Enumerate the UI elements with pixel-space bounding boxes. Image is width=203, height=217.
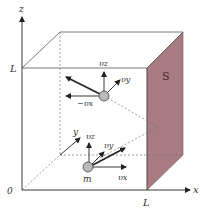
mass-particle: [83, 162, 93, 172]
top-vz-label: υz: [99, 59, 109, 68]
bot-vx-label: υx: [118, 173, 128, 182]
y-axis: [60, 138, 80, 155]
bot-vz-label: υz: [86, 132, 96, 141]
z-axis-label: z: [18, 4, 24, 14]
wall-s-face: [147, 32, 183, 190]
x-L-label: L: [142, 197, 150, 208]
z-L-label: L: [9, 63, 17, 74]
top-vy-label: υy: [121, 75, 131, 84]
mass-label: m: [83, 174, 92, 184]
top-particle: [99, 91, 109, 101]
top-neg-vx-label: −υx: [77, 99, 94, 108]
y-axis-label: y: [72, 127, 79, 137]
bot-vy-label: υy: [104, 141, 114, 150]
origin-label: 0: [7, 186, 13, 196]
x-axis-label: x: [193, 184, 199, 195]
particle-in-box-diagram: z x y 0 L L S υz υy −υx υz υy υx m: [0, 0, 203, 217]
top-particle-vectors: [66, 72, 120, 96]
wall-s-label: S: [162, 70, 170, 83]
